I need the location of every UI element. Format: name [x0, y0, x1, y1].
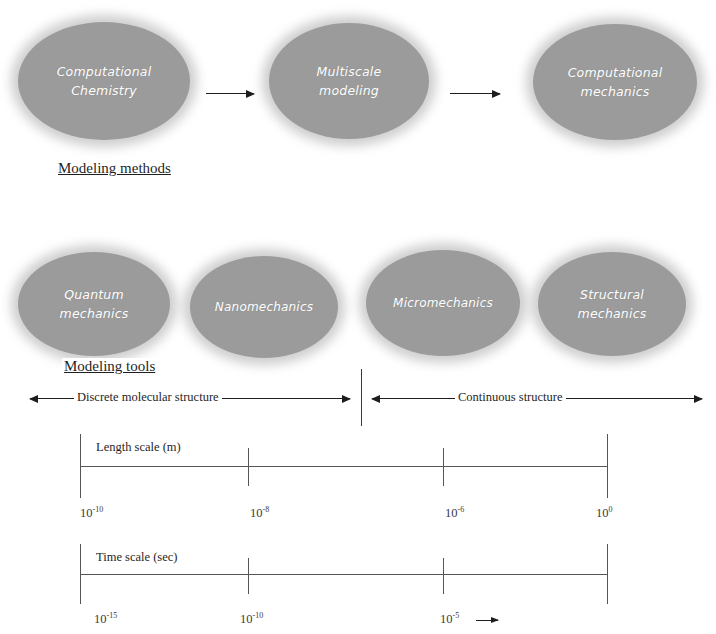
tick-label-exponent: -10	[253, 611, 264, 620]
node-computational-mechanics[interactable]: Computational mechanics	[533, 24, 697, 140]
time-scale-axis-line	[80, 574, 607, 575]
node-label-line: Computational	[568, 63, 663, 82]
length-scale-tick-label: 100	[596, 506, 613, 521]
length-scale-tick-label: 10-10	[80, 506, 103, 521]
caption-modeling-methods: Modeling methods	[56, 160, 173, 177]
node-multiscale-modeling[interactable]: Multiscale modeling	[269, 23, 429, 139]
node-label-line: Computational	[57, 62, 152, 81]
node-label-line: Quantum	[64, 285, 124, 304]
time-scale-tick	[248, 558, 249, 594]
node-nanomechanics[interactable]: Nanomechanics	[190, 256, 338, 358]
time-scale-tick	[607, 544, 608, 604]
time-scale-tick-label: 10-15	[94, 612, 117, 627]
time-scale-tick	[443, 558, 444, 594]
tick-label-base: 10	[80, 506, 93, 520]
tick-label-exponent: -15	[107, 611, 118, 620]
caption-modeling-tools: Modeling tools	[62, 358, 157, 375]
length-scale-tick-label: 10-8	[250, 506, 269, 521]
node-computational-chemistry[interactable]: Computational Chemistry	[18, 22, 190, 140]
tick-label-exponent: -5	[453, 611, 460, 620]
tick-label-base: 10	[440, 612, 453, 626]
node-label-line: mechanics	[578, 304, 647, 323]
tick-label-base: 10	[445, 506, 458, 520]
tick-label-base: 10	[596, 506, 609, 520]
tick-label-exponent: -10	[93, 505, 104, 514]
node-label-line: Multiscale	[317, 62, 382, 81]
tick-label-exponent: -6	[458, 505, 465, 514]
time-scale-tick-label: 10-5	[440, 612, 459, 627]
label-discrete-molecular-structure: Discrete molecular structure	[74, 390, 222, 405]
label-continuous-structure: Continuous structure	[455, 390, 566, 405]
node-structural-mechanics[interactable]: Structural mechanics	[538, 252, 686, 356]
tick-label-base: 10	[94, 612, 107, 626]
node-label-line: Micromechanics	[393, 294, 493, 313]
tick-label-base: 10	[250, 506, 263, 520]
length-scale-tick	[607, 434, 608, 498]
node-quantum-mechanics[interactable]: Quantum mechanics	[18, 252, 170, 356]
length-scale-tick-label: 10-6	[445, 506, 464, 521]
length-scale-tick	[248, 448, 249, 486]
time-scale-tick	[80, 544, 81, 604]
time-scale-trailing-arrow-icon	[476, 620, 498, 621]
node-label-line: mechanics	[60, 304, 129, 323]
node-label-line: modeling	[319, 81, 379, 100]
node-label-line: mechanics	[581, 82, 650, 101]
tick-label-exponent: 0	[609, 505, 613, 514]
node-label-line: Nanomechanics	[215, 298, 313, 317]
tick-label-exponent: -8	[263, 505, 270, 514]
length-scale-axis-line	[80, 466, 607, 467]
length-scale-tick	[80, 434, 81, 498]
arrow-right-icon	[206, 93, 254, 94]
length-scale-tick	[443, 448, 444, 486]
diagram-canvas: Computational Chemistry Multiscale model…	[0, 0, 716, 634]
tick-label-base: 10	[240, 612, 253, 626]
arrow-right-icon	[450, 93, 500, 94]
length-scale-axis-title: Length scale (m)	[96, 440, 181, 455]
region-divider	[361, 369, 362, 426]
time-scale-axis-title: Time scale (sec)	[96, 550, 177, 565]
time-scale-tick-label: 10-10	[240, 612, 263, 627]
node-label-line: Structural	[580, 285, 644, 304]
node-label-line: Chemistry	[71, 81, 137, 100]
node-micromechanics[interactable]: Micromechanics	[366, 250, 520, 356]
